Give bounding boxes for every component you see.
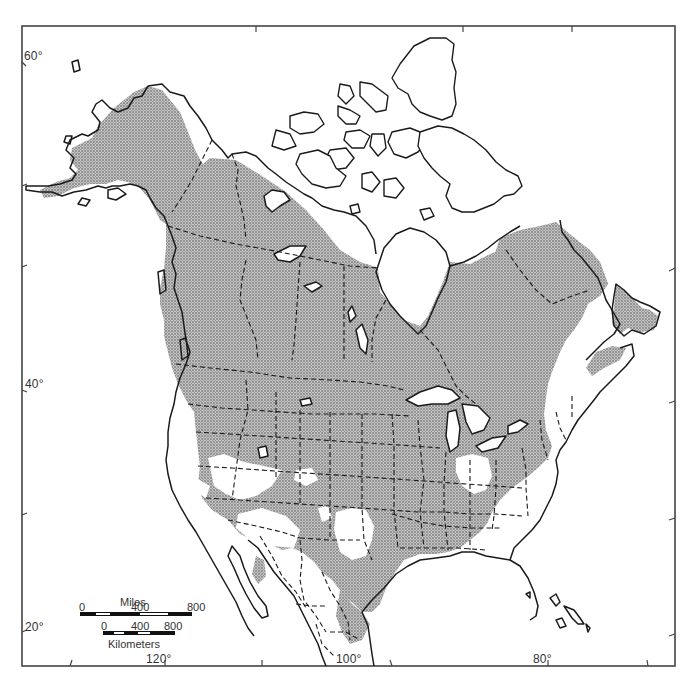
cuba: [564, 606, 584, 624]
latitude-label-20: 20°: [25, 620, 44, 634]
longitude-label-80: 80°: [533, 652, 552, 666]
baffin-island: [418, 126, 522, 212]
arctic-islands: [272, 38, 522, 220]
latitude-label-60: 60°: [24, 49, 43, 63]
km-tick-0: 0: [101, 620, 107, 632]
range-map: [0, 0, 692, 686]
miles-tick-400: 400: [131, 601, 149, 613]
longitude-label-100: 100°: [336, 652, 362, 666]
latitude-label-40: 40°: [25, 377, 44, 391]
ellesmere-island: [392, 38, 456, 120]
miles-tick-800: 800: [187, 601, 205, 613]
km-tick-400: 400: [131, 620, 149, 632]
range-area: [40, 86, 658, 644]
longitude-label-120: 120°: [146, 652, 172, 666]
kilometers-label: Kilometers: [108, 638, 160, 650]
miles-tick-0: 0: [79, 601, 85, 613]
lake-michigan: [446, 410, 460, 452]
km-tick-800: 800: [164, 620, 182, 632]
